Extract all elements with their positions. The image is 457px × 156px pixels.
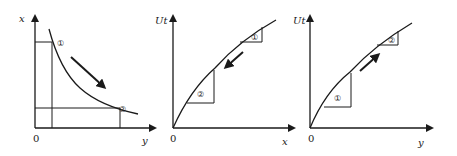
panel-utility-of-y: Ut 0 y ② ①	[293, 15, 432, 148]
y-axis-label: Ut	[293, 15, 306, 26]
direction-arrow	[360, 55, 378, 71]
point-label-1: ①	[57, 39, 64, 48]
x-axis-label: y	[141, 135, 148, 146]
point-label-1: ①	[334, 94, 341, 103]
point-label-2: ②	[197, 90, 204, 99]
origin-label: 0	[170, 133, 176, 144]
point-label-2: ②	[388, 36, 395, 45]
x-axis-label: x	[282, 136, 288, 147]
point-label-1: ①	[251, 33, 258, 42]
direction-arrow	[71, 57, 104, 87]
utility-curve	[310, 23, 412, 128]
point-label-2: ②	[119, 105, 126, 114]
panel-indifference-curve: x 0 y ① ②	[19, 13, 155, 146]
diagram-canvas: x 0 y ① ② Ut 0 x ① ② Ut 0 y ②	[0, 0, 457, 156]
y-axis-label: x	[19, 13, 25, 24]
origin-label: 0	[308, 133, 314, 144]
x-axis-label: y	[417, 137, 424, 148]
panel-utility-of-x: Ut 0 x ① ②	[155, 15, 294, 147]
origin-label: 0	[33, 133, 39, 144]
utility-curve	[173, 20, 276, 128]
y-axis-label: Ut	[155, 15, 168, 26]
